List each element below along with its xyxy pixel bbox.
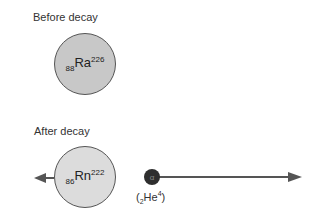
alpha-trajectory-arrow bbox=[158, 172, 302, 182]
recoil-arrows bbox=[0, 0, 317, 220]
helium-label: (2He4) bbox=[136, 190, 165, 205]
alpha-particle: α bbox=[144, 169, 160, 185]
radon-recoil-arrow bbox=[34, 173, 54, 183]
radon-symbol: 86Rn222 bbox=[66, 168, 105, 186]
alpha-glyph: α bbox=[150, 173, 155, 182]
radon-nucleus: 86Rn222 bbox=[54, 146, 116, 208]
